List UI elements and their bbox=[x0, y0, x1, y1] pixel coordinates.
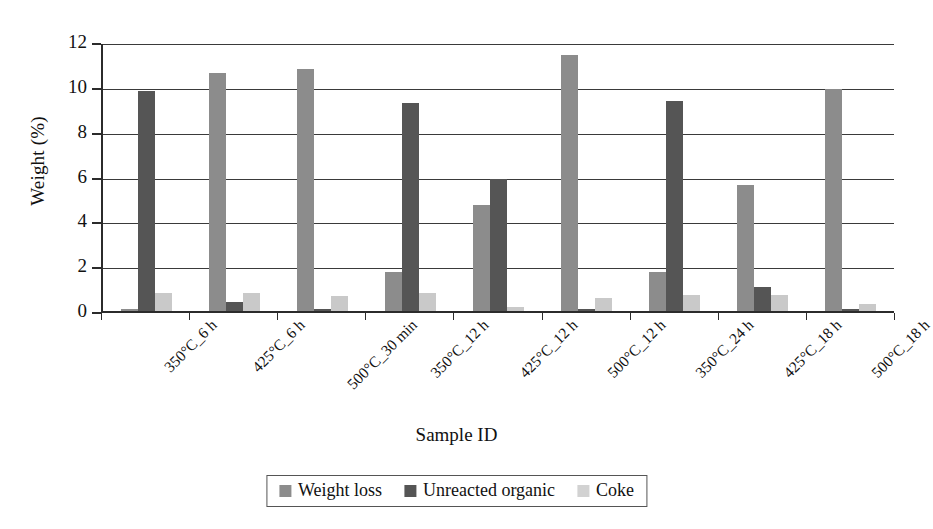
y-tick-label: 0 bbox=[47, 300, 87, 322]
bar-group bbox=[718, 44, 806, 311]
y-tick-mark bbox=[92, 178, 101, 180]
x-tick-label: 500°C_18 h bbox=[868, 316, 933, 382]
bar bbox=[842, 309, 859, 311]
y-tick-label: 12 bbox=[47, 31, 87, 53]
y-tick-mark bbox=[92, 222, 101, 224]
bar bbox=[507, 307, 524, 311]
y-tick-label: 6 bbox=[47, 166, 87, 188]
bar-group bbox=[367, 44, 455, 311]
x-tick-label: 350°C_6 h bbox=[161, 316, 221, 376]
bar bbox=[683, 295, 700, 311]
bar bbox=[578, 309, 595, 311]
x-tick-label: 350°C_12 h bbox=[427, 316, 493, 382]
y-axis-title: Weight (%) bbox=[27, 61, 49, 261]
bar bbox=[331, 296, 348, 311]
bar-group bbox=[103, 44, 191, 311]
legend-label: Unreacted organic bbox=[423, 480, 555, 501]
bar-group bbox=[542, 44, 630, 311]
bar-group bbox=[455, 44, 543, 311]
x-tick-label: 350°C_24 h bbox=[692, 316, 758, 382]
chart-legend: Weight lossUnreacted organicCoke bbox=[266, 475, 647, 507]
y-tick-label: 4 bbox=[47, 210, 87, 232]
bar bbox=[138, 91, 155, 311]
bar bbox=[737, 185, 754, 311]
legend-item[interactable]: Weight loss bbox=[279, 480, 382, 501]
bar bbox=[473, 205, 490, 311]
bar bbox=[121, 309, 138, 311]
bar bbox=[226, 302, 243, 311]
bar bbox=[754, 287, 771, 311]
legend-swatch-icon bbox=[577, 485, 589, 497]
bar bbox=[595, 298, 612, 311]
bar-group bbox=[630, 44, 718, 311]
legend-label: Coke bbox=[596, 480, 634, 501]
y-tick-mark bbox=[92, 88, 101, 90]
bar-group bbox=[806, 44, 894, 311]
bar bbox=[297, 69, 314, 311]
bar bbox=[419, 293, 436, 311]
y-tick-mark bbox=[92, 43, 101, 45]
y-tick-label: 2 bbox=[47, 255, 87, 277]
y-tick-label: 10 bbox=[47, 76, 87, 98]
bar-groups bbox=[103, 44, 894, 311]
bar bbox=[155, 293, 172, 311]
legend-swatch-icon bbox=[279, 485, 291, 497]
bar bbox=[402, 103, 419, 311]
bar-group bbox=[191, 44, 279, 311]
y-tick-mark bbox=[92, 133, 101, 135]
bar bbox=[649, 272, 666, 311]
bar bbox=[243, 293, 260, 311]
y-tick-mark bbox=[92, 267, 101, 269]
bar bbox=[561, 55, 578, 311]
x-tick-label: 425°C_18 h bbox=[780, 316, 846, 382]
x-tick-mark bbox=[894, 313, 895, 320]
x-tick-label: 500°C_12 h bbox=[603, 316, 669, 382]
bar bbox=[490, 179, 507, 311]
y-tick-mark bbox=[92, 312, 101, 314]
x-axis-title: Sample ID bbox=[0, 424, 913, 446]
bar bbox=[209, 73, 226, 311]
legend-swatch-icon bbox=[404, 485, 416, 497]
bar bbox=[385, 272, 402, 311]
bar bbox=[314, 309, 331, 311]
x-axis-labels: 350°C_6 h425°C_6 h500°C_30 min350°C_12 h… bbox=[101, 316, 894, 416]
y-tick-label: 8 bbox=[47, 121, 87, 143]
bar-group bbox=[279, 44, 367, 311]
plot-area bbox=[101, 44, 894, 313]
bar bbox=[666, 101, 683, 311]
legend-item[interactable]: Unreacted organic bbox=[404, 480, 555, 501]
legend-item[interactable]: Coke bbox=[577, 480, 634, 501]
x-tick-label: 500°C_30 min bbox=[344, 316, 421, 393]
legend-label: Weight loss bbox=[298, 480, 382, 501]
x-tick-label: 425°C_6 h bbox=[249, 316, 309, 376]
bar bbox=[825, 89, 842, 311]
bar bbox=[771, 295, 788, 311]
x-tick-label: 425°C_12 h bbox=[515, 316, 581, 382]
bar bbox=[859, 304, 876, 311]
